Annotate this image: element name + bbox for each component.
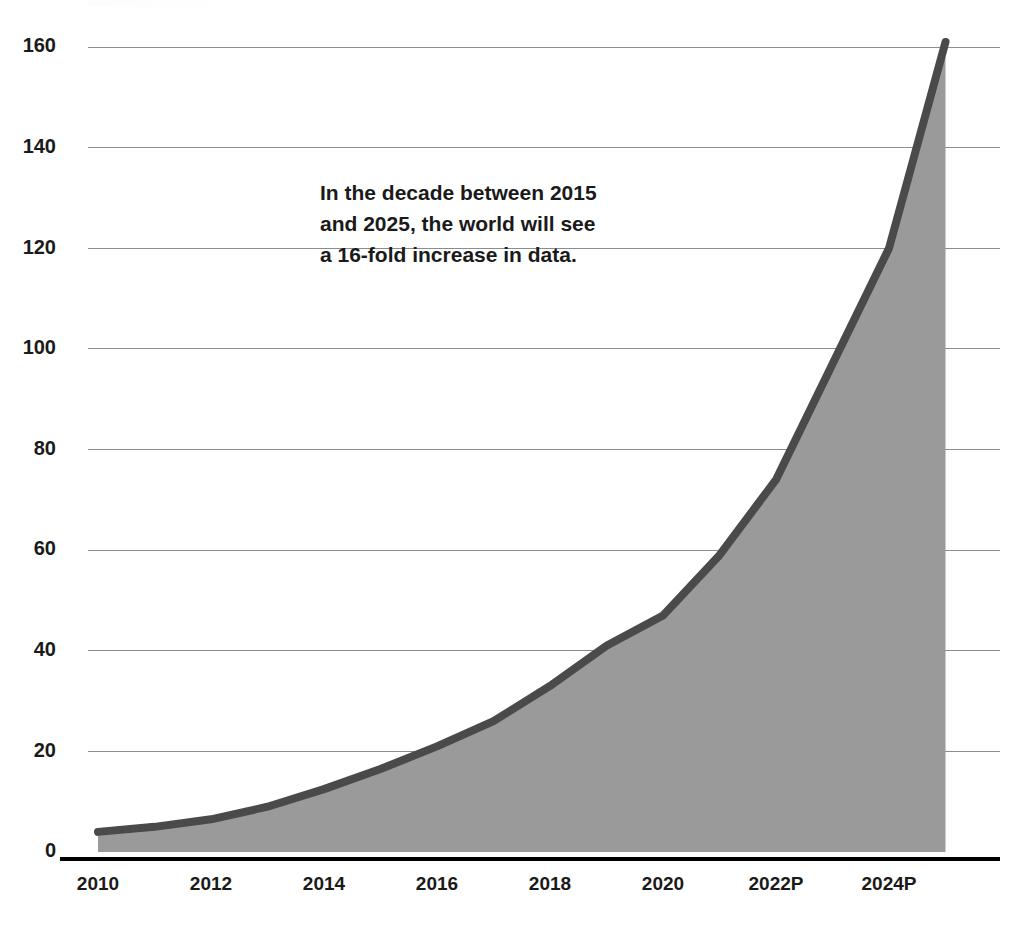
area-series-group [98,42,946,852]
area-chart: 020406080100120140160 201020122014201620… [0,0,1021,929]
x-axis-tick-labels: 2010201220142016201820202022P2024P [77,873,917,894]
area-fill [98,42,946,852]
x-tick-label: 2020 [642,873,684,894]
y-tick-label: 160 [23,34,56,56]
x-tick-label: 2014 [303,873,346,894]
annotation-line: In the decade between 2015 [320,181,597,204]
y-tick-label: 60 [34,537,56,559]
x-tick-label: 2012 [190,873,232,894]
y-tick-label: 0 [45,839,56,861]
y-axis-tick-labels: 020406080100120140160 [23,34,56,861]
x-tick-label: 2024P [862,873,917,894]
x-tick-label: 2018 [529,873,571,894]
x-tick-label: 2010 [77,873,119,894]
y-tick-label: 80 [34,437,56,459]
y-tick-label: 100 [23,336,56,358]
chart-container: 020406080100120140160 201020122014201620… [0,0,1021,929]
x-tick-label: 2022P [749,873,804,894]
chart-annotation: In the decade between 2015and 2025, the … [320,181,597,266]
y-tick-label: 20 [34,739,56,761]
annotation-line: a 16-fold increase in data. [320,243,577,266]
y-tick-label: 40 [34,638,56,660]
annotation-line: and 2025, the world will see [320,212,595,235]
y-tick-label: 120 [23,236,56,258]
x-tick-label: 2016 [416,873,458,894]
y-tick-label: 140 [23,135,56,157]
